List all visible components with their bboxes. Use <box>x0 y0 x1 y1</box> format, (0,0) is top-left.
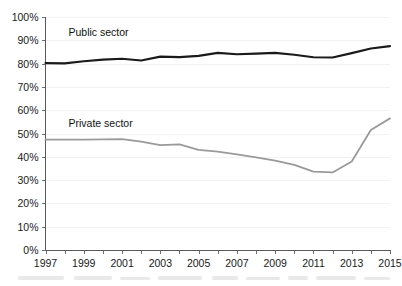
x-tick-label: 1999 <box>72 257 96 269</box>
chart-container: 0%10%20%30%40%50%60%70%80%90%100% 199719… <box>0 0 402 286</box>
page-text-fragment <box>120 277 150 280</box>
page-text-fragment <box>288 276 308 280</box>
y-tick-label: 50% <box>17 128 38 140</box>
y-tick-label: 60% <box>17 104 38 116</box>
x-tick-label: 2009 <box>263 257 287 269</box>
x-tick-label: 2011 <box>302 257 325 269</box>
x-tick-label: 2013 <box>340 257 364 269</box>
page-text-fragment <box>364 277 390 280</box>
chart-background <box>0 0 402 286</box>
series-label-public-sector: Public sector <box>68 26 129 38</box>
series-label-private-sector: Private sector <box>68 117 133 129</box>
page-text-fragment <box>74 276 112 280</box>
page-text-fragment <box>158 276 202 280</box>
page-text-fragment <box>212 276 238 280</box>
y-tick-label: 40% <box>17 151 38 163</box>
line-chart: 0%10%20%30%40%50%60%70%80%90%100% 199719… <box>0 0 402 286</box>
x-tick-label: 2005 <box>187 257 211 269</box>
y-tick-label: 20% <box>17 197 38 209</box>
y-tick-label: 90% <box>17 34 38 46</box>
page-text-fragment <box>316 276 356 280</box>
x-tick-label: 2001 <box>110 257 134 269</box>
x-tick-label: 2015 <box>378 257 402 269</box>
y-tick-label: 80% <box>17 58 38 70</box>
page-text-fragment <box>246 277 280 280</box>
y-tick-label: 30% <box>17 174 38 186</box>
y-tick-label: 70% <box>17 81 38 93</box>
x-tick-label: 1997 <box>34 257 58 269</box>
y-tick-label: 100% <box>12 11 39 23</box>
y-tick-label: 0% <box>23 244 38 256</box>
x-tick-label: 2007 <box>225 257 249 269</box>
x-tick-label: 2003 <box>149 257 173 269</box>
page-text-fragment <box>18 276 64 280</box>
y-tick-label: 10% <box>17 221 38 233</box>
